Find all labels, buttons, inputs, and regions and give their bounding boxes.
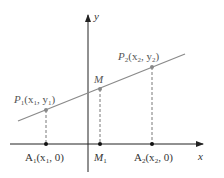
label-a2: A2(x2, 0) bbox=[134, 151, 173, 165]
line-p1-p2 bbox=[18, 54, 185, 121]
y-axis-label: y bbox=[93, 10, 99, 22]
point-a2 bbox=[150, 142, 154, 146]
label-a1: A1(x1, 0) bbox=[25, 151, 64, 165]
label-m: M bbox=[93, 73, 104, 85]
point-m1 bbox=[98, 142, 102, 146]
point-p1 bbox=[44, 108, 48, 112]
x-axis-label: x bbox=[197, 150, 203, 162]
point-a1 bbox=[44, 142, 48, 146]
coordinate-diagram: y x P1(x1, y1) M P2(x2, y2) A1(x1, 0) M1… bbox=[0, 0, 224, 178]
label-p1: P1(x1, y1) bbox=[13, 93, 55, 107]
label-p2: P2(x2, y2) bbox=[117, 50, 159, 64]
point-p2 bbox=[150, 65, 154, 69]
label-m1: M1 bbox=[93, 151, 107, 165]
point-m bbox=[98, 87, 102, 91]
